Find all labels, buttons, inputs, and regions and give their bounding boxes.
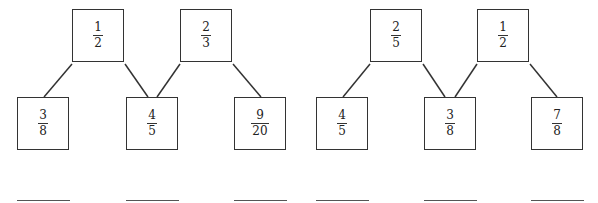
denominator: 5 <box>147 125 157 138</box>
numerator: 4 <box>337 109 347 122</box>
numerator: 1 <box>93 21 103 34</box>
fraction: 7 8 <box>552 109 562 138</box>
denominator: 2 <box>498 37 508 50</box>
numerator: 2 <box>391 21 401 34</box>
fraction: 9 20 <box>251 109 268 138</box>
fraction: 2 3 <box>201 21 211 50</box>
answer-line-3[interactable] <box>234 200 287 201</box>
denominator: 2 <box>93 37 103 50</box>
fraction: 3 8 <box>445 109 455 138</box>
denominator: 8 <box>445 125 455 138</box>
answer-line-1[interactable] <box>316 200 369 201</box>
numerator: 7 <box>552 109 562 122</box>
denominator: 8 <box>552 125 562 138</box>
numerator: 9 <box>255 109 265 122</box>
bottom-box-2: 3 8 <box>424 97 476 150</box>
top-box-2: 1 2 <box>477 9 529 62</box>
numerator: 1 <box>498 21 508 34</box>
fraction: 4 5 <box>147 109 157 138</box>
fraction: 3 8 <box>38 109 48 138</box>
numerator: 3 <box>38 109 48 122</box>
denominator: 20 <box>251 125 268 138</box>
denominator: 5 <box>337 125 347 138</box>
fraction: 1 2 <box>498 21 508 50</box>
numerator: 2 <box>201 21 211 34</box>
answer-line-1[interactable] <box>17 200 70 201</box>
bottom-box-3: 9 20 <box>234 97 286 150</box>
bottom-box-1: 4 5 <box>316 97 368 150</box>
answer-line-2[interactable] <box>126 200 179 201</box>
denominator: 5 <box>391 37 401 50</box>
bottom-box-2: 4 5 <box>126 97 178 150</box>
top-box-1: 1 2 <box>72 9 124 62</box>
top-box-1: 2 5 <box>370 9 422 62</box>
answer-line-2[interactable] <box>424 200 477 201</box>
numerator: 3 <box>445 109 455 122</box>
fraction: 2 5 <box>391 21 401 50</box>
numerator: 4 <box>147 109 157 122</box>
bottom-box-1: 3 8 <box>17 97 69 150</box>
denominator: 8 <box>38 125 48 138</box>
denominator: 3 <box>201 37 211 50</box>
fraction: 4 5 <box>337 109 347 138</box>
answer-line-3[interactable] <box>531 200 584 201</box>
fraction: 1 2 <box>93 21 103 50</box>
bottom-box-3: 7 8 <box>531 97 583 150</box>
top-box-2: 2 3 <box>180 9 232 62</box>
